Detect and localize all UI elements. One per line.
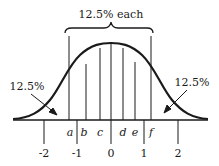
tick-label-neg2: -2	[39, 147, 50, 160]
top-label: 12.5% each	[79, 8, 144, 21]
tick-label-2: 2	[175, 147, 182, 160]
label-a: a	[67, 126, 74, 139]
left-tail-label: 12.5%	[10, 80, 45, 93]
right-tail-label: 12.5%	[175, 76, 210, 89]
tick-label-1: 1	[141, 147, 148, 160]
brace	[65, 22, 153, 33]
label-c: c	[97, 126, 103, 139]
region-dividers	[69, 36, 151, 120]
label-e: e	[132, 126, 139, 139]
label-b: b	[80, 126, 87, 139]
normal-curve-diagram: 12.5% each a b c d e f -2 -1 0 1 2 1	[0, 0, 219, 166]
tick-label-0: 0	[108, 147, 115, 160]
label-f: f	[148, 126, 155, 139]
axis-ticks	[44, 120, 178, 144]
tick-label-neg1: -1	[72, 147, 83, 160]
label-d: d	[119, 126, 126, 139]
